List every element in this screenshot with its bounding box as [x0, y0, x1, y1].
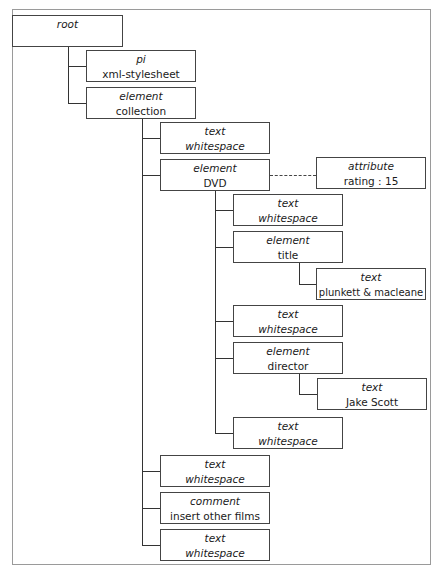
node-value: insert other films: [161, 509, 269, 524]
connector-to-dvd: [142, 175, 160, 176]
node-value: whitespace: [161, 472, 269, 487]
node-element-title: element title: [233, 231, 343, 263]
node-type: text: [161, 531, 269, 546]
node-value: director: [234, 359, 342, 374]
connector-to-ws2: [215, 210, 233, 211]
node-text-whitespace: text whitespace: [160, 529, 270, 561]
connector-to-pi: [68, 66, 86, 67]
node-pi: pi xml-stylesheet: [86, 50, 196, 82]
node-element-dvd: element DVD: [160, 159, 270, 191]
node-value: whitespace: [234, 211, 342, 226]
node-value: Jake Scott: [318, 395, 426, 410]
node-value: xml-stylesheet: [87, 67, 195, 82]
connector-to-comment: [142, 508, 160, 509]
connector-to-ws4: [215, 433, 233, 434]
node-text-whitespace: text whitespace: [233, 194, 343, 226]
connector-to-ws5: [142, 471, 160, 472]
node-type: text: [161, 124, 269, 139]
node-type: element: [161, 161, 269, 176]
connector-root-children: [68, 46, 69, 104]
node-type: comment: [161, 494, 269, 509]
node-value: plunkett & macleane: [317, 285, 425, 300]
node-value: whitespace: [161, 546, 269, 561]
node-type: pi: [87, 52, 195, 67]
node-type: root: [13, 17, 122, 32]
connector-to-ws1: [142, 138, 160, 139]
connector-to-director: [215, 358, 233, 359]
connector-director-child: [299, 374, 300, 395]
connector-to-titletext: [299, 284, 316, 285]
node-type: attribute: [317, 159, 425, 174]
node-type: element: [234, 344, 342, 359]
connector-to-ws3: [215, 321, 233, 322]
node-text-title-value: text plunkett & macleane: [316, 268, 426, 300]
node-text-whitespace: text whitespace: [233, 417, 343, 449]
node-text-whitespace: text whitespace: [233, 305, 343, 337]
node-value: whitespace: [234, 322, 342, 337]
connector-to-ws6: [142, 545, 160, 546]
node-value: rating : 15: [317, 174, 425, 189]
connector-title-child: [299, 263, 300, 285]
node-attribute-rating: attribute rating : 15: [316, 157, 426, 189]
node-type: element: [234, 233, 342, 248]
node-value: whitespace: [161, 139, 269, 154]
connector-collection-children: [142, 119, 143, 546]
node-root: root: [12, 15, 123, 47]
node-type: text: [234, 307, 342, 322]
node-type: text: [317, 270, 425, 285]
connector-to-directortext: [299, 394, 317, 395]
connector-dvd-attribute: [270, 175, 316, 176]
connector-dvd-children: [215, 191, 216, 434]
node-type: text: [234, 419, 342, 434]
node-value: DVD: [161, 176, 269, 191]
node-type: text: [234, 196, 342, 211]
node-type: text: [161, 457, 269, 472]
node-element-collection: element collection: [86, 87, 196, 119]
connector-to-collection: [68, 103, 86, 104]
node-text-whitespace: text whitespace: [160, 122, 270, 154]
node-value: whitespace: [234, 434, 342, 449]
node-element-director: element director: [233, 342, 343, 374]
node-text-whitespace: text whitespace: [160, 455, 270, 487]
node-value: collection: [87, 104, 195, 119]
node-type: element: [87, 89, 195, 104]
node-value: title: [234, 248, 342, 263]
connector-to-title: [215, 247, 233, 248]
node-comment: comment insert other films: [160, 492, 270, 524]
node-text-director-value: text Jake Scott: [317, 378, 427, 410]
node-type: text: [318, 380, 426, 395]
